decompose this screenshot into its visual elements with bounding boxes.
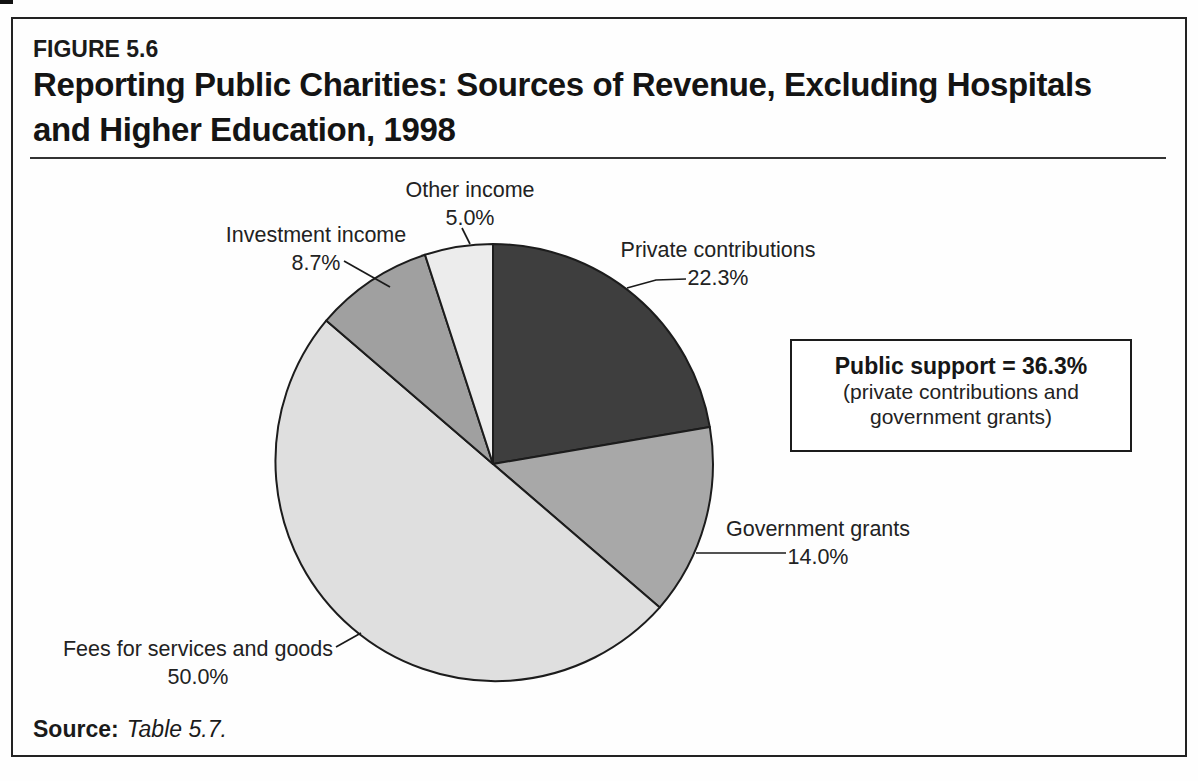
label-investment-income-value: 8.7% xyxy=(166,249,466,277)
label-government-grants: Government grants 14.0% xyxy=(673,515,963,571)
public-support-title: Public support = 36.3% xyxy=(792,353,1130,379)
figure-page: FIGURE 5.6 Reporting Public Charities: S… xyxy=(0,0,1198,781)
label-private-contributions-value: 22.3% xyxy=(573,264,863,292)
public-support-annotation-box: Public support = 36.3% (private contribu… xyxy=(790,339,1132,452)
label-fees-for-services-and-goods: Fees for services and goods 50.0% xyxy=(48,635,348,691)
source-label: Source: xyxy=(33,716,119,742)
public-support-note-line2: government grants) xyxy=(792,404,1130,429)
label-other-income-name: Other income xyxy=(320,176,620,204)
label-private-contributions: Private contributions 22.3% xyxy=(573,236,863,292)
label-government-grants-name: Government grants xyxy=(673,515,963,543)
label-fees-for-services-and-goods-value: 50.0% xyxy=(48,663,348,691)
title-divider-rule xyxy=(30,157,1166,159)
source-value: Table 5.7. xyxy=(127,716,227,742)
label-other-income: Other income 5.0% xyxy=(320,176,620,232)
scan-artifact-mark xyxy=(0,0,13,4)
figure-title-line2: and Higher Education, 1998 xyxy=(33,111,455,148)
public-support-note-line1: (private contributions and xyxy=(792,379,1130,404)
label-government-grants-value: 14.0% xyxy=(673,543,963,571)
figure-number-label: FIGURE 5.6 xyxy=(33,36,158,63)
label-private-contributions-name: Private contributions xyxy=(573,236,863,264)
label-other-income-value: 5.0% xyxy=(320,204,620,232)
source-line: Source:Table 5.7. xyxy=(33,716,227,743)
figure-title: Reporting Public Charities: Sources of R… xyxy=(33,62,1163,152)
label-fees-for-services-and-goods-name: Fees for services and goods xyxy=(48,635,348,663)
figure-title-line1: Reporting Public Charities: Sources of R… xyxy=(33,66,1092,103)
